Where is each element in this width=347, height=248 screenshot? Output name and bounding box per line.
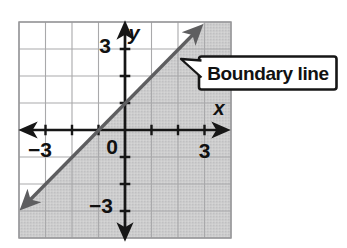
y-tick-3-label: 3 <box>99 34 111 57</box>
graph-canvas: 3 −3 0 −3 3 y x Boundary line <box>0 0 347 248</box>
y-axis-label: y <box>127 22 140 44</box>
callout: Boundary line <box>181 57 337 90</box>
origin-label: 0 <box>106 135 118 158</box>
callout-label: Boundary line <box>207 63 328 84</box>
x-tick-3-label: 3 <box>199 139 211 162</box>
x-tick-neg3-label: −3 <box>28 138 52 161</box>
y-tick-neg3-label: −3 <box>89 194 113 217</box>
x-axis-label: x <box>212 97 225 119</box>
inequality-graph-figure: 3 −3 0 −3 3 y x Boundary line <box>0 0 347 248</box>
